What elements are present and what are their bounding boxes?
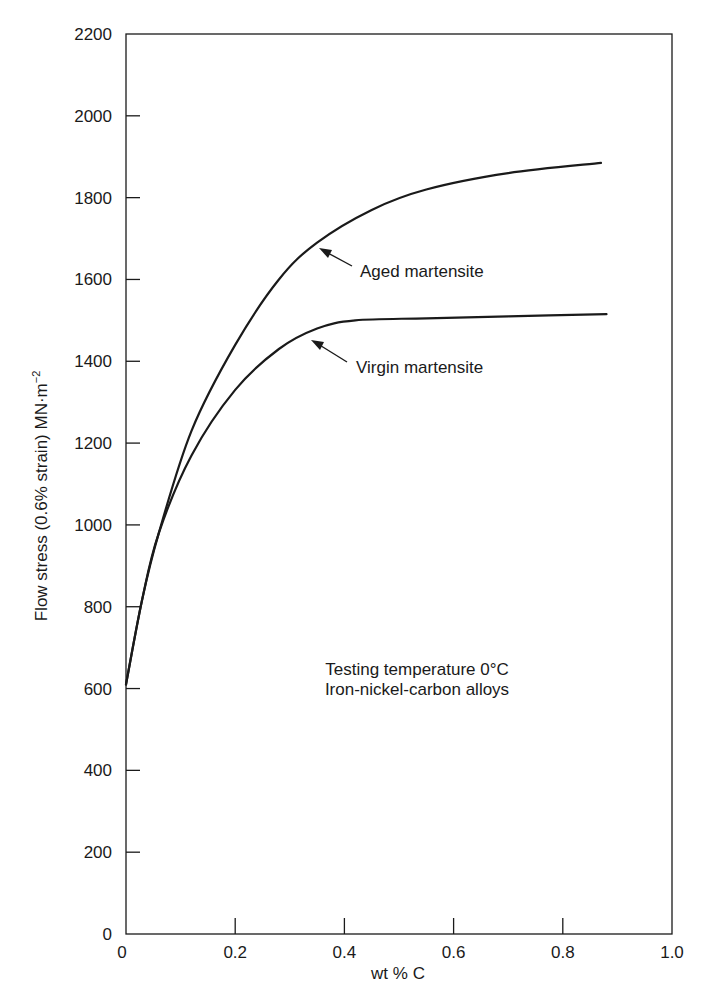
svg-text:Flow stress (0.6% strain) MN·m: Flow stress (0.6% strain) MN·m−2 (30, 371, 51, 622)
y-tick-label: 2000 (74, 107, 112, 126)
y-tick-label: 600 (84, 680, 112, 699)
x-tick-label: 0.4 (333, 943, 357, 962)
x-axis-title: wt % C (370, 964, 425, 983)
y-tick-label: 2200 (74, 25, 112, 44)
x-tick-label: 0 (117, 943, 126, 962)
aged-martensite-label: Aged martensite (360, 262, 484, 281)
x-tick-label: 0.6 (442, 943, 466, 962)
y-tick-label: 200 (84, 843, 112, 862)
flow-stress-chart: 0200400600800100012001400160018002000220… (0, 0, 703, 1006)
y-axis-title-superscript: −2 (30, 371, 42, 384)
y-tick-label: 400 (84, 761, 112, 780)
y-tick-label: 800 (84, 598, 112, 617)
y-tick-label: 1600 (74, 270, 112, 289)
y-tick-label: 1200 (74, 434, 112, 453)
y-tick-label: 0 (103, 925, 112, 944)
x-tick-label: 0.2 (223, 943, 247, 962)
y-tick-label: 1400 (74, 352, 112, 371)
y-axis-title-main: Flow stress (0.6% strain) MN·m (32, 383, 51, 621)
alloy-note: Iron-nickel-carbon alloys (325, 680, 509, 699)
y-axis-title: Flow stress (0.6% strain) MN·m−2 (30, 371, 51, 622)
x-tick-label: 1.0 (660, 943, 684, 962)
x-tick-label: 0.8 (551, 943, 575, 962)
virgin-martensite-label: Virgin martensite (356, 358, 483, 377)
y-tick-label: 1000 (74, 516, 112, 535)
y-tick-label: 1800 (74, 189, 112, 208)
testing-temperature-note: Testing temperature 0°C (325, 660, 509, 679)
